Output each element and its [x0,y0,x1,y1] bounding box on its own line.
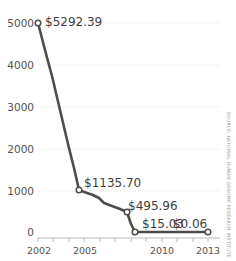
marker-2002[interactable] [35,20,41,26]
data-labels: $5292.39 $1135.70 $495.96 $15.03 $0.06 [45,15,207,231]
source-attribution: SOURCE: NATIONAL HUMAN GENOME RESEARCH I… [226,112,231,258]
data-label-5292: $5292.39 [45,15,102,29]
gridlines [37,23,220,191]
x-tick-2005: 2005 [73,245,97,256]
data-label-1135: $1135.70 [84,176,141,190]
y-tick-1000: 1000 [7,185,34,197]
data-markers [35,20,211,235]
marker-2005[interactable] [76,187,82,193]
chart-container: 5000 4000 3000 2000 1000 0 2002 [0,0,236,261]
y-tick-0: 0 [27,226,34,238]
y-tick-5000: 5000 [7,17,34,29]
x-axis-ticks [38,238,208,242]
x-tick-2002: 2002 [27,245,51,256]
y-tick-3000: 3000 [7,101,34,113]
marker-2009[interactable] [132,229,138,235]
data-label-495: $495.96 [128,199,178,213]
y-axis-labels: 5000 4000 3000 2000 1000 0 [7,17,34,238]
y-tick-4000: 4000 [7,59,34,71]
y-tick-2000: 2000 [7,143,34,155]
data-line-cost-per-genome [38,23,208,232]
line-chart: 5000 4000 3000 2000 1000 0 2002 [0,0,236,261]
x-axis-labels: 2002 2005 2010 2013 [27,245,220,256]
x-tick-2010: 2010 [150,245,174,256]
x-tick-2013: 2013 [196,245,220,256]
data-label-006: $0.06 [173,217,207,231]
